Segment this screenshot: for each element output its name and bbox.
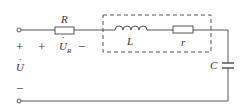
ur-minus: − (78, 40, 85, 53)
label-C: C (210, 60, 217, 71)
dashed-coil-box (103, 15, 211, 52)
label-r: r (181, 37, 185, 48)
circuit-diagram: R L r C + · U − + · UR − (0, 0, 246, 112)
resistor-r (173, 26, 193, 33)
top-terminal (17, 28, 21, 32)
label-R: R (61, 14, 68, 25)
source-voltage-label: U (16, 62, 24, 73)
bottom-terminal (17, 99, 21, 103)
source-minus: − (16, 82, 23, 95)
label-L: L (127, 36, 133, 47)
source-plus: + (16, 40, 23, 53)
circuit-schematic (0, 0, 246, 112)
inductor-L (115, 26, 147, 30)
ur-plus: + (38, 40, 45, 53)
ur-label: UR (59, 41, 71, 55)
